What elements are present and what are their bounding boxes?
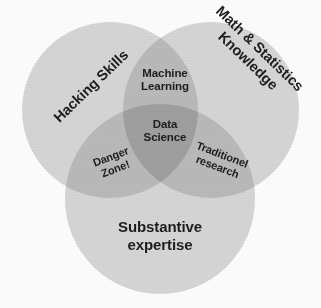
label-data-science: Data Science [133,118,197,144]
label-machine-learning: Machine Learning [128,67,202,93]
venn-circles-graphic [0,0,321,308]
data-science-venn-diagram: Hacking Skills Math & Statistics Knowled… [0,0,321,308]
label-substantive-expertise: Substantive expertise [95,218,225,253]
